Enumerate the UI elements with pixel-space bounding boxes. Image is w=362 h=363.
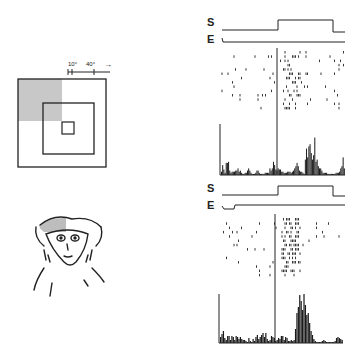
top-eye-trace <box>222 38 345 42</box>
top-stimulus-label: S <box>207 16 214 28</box>
bottom-histogram <box>220 294 343 343</box>
scale-bar <box>68 69 110 75</box>
top-eye-label: E <box>207 33 214 45</box>
bottom-stimulus-label: S <box>207 182 214 194</box>
bottom-raster <box>224 218 340 276</box>
bottom-eye-trace <box>222 205 345 209</box>
stimulus-diagram <box>18 79 106 167</box>
inner-square <box>62 122 74 134</box>
bottom-stimulus-trace <box>222 186 345 196</box>
bottom-eye-label: E <box>207 199 214 211</box>
top-stimulus-trace <box>222 20 345 32</box>
shaded-quadrant <box>18 79 62 121</box>
monkey-drawing <box>34 217 104 296</box>
top-histogram <box>221 138 345 175</box>
top-raster <box>222 51 344 109</box>
figure-canvas <box>0 0 362 363</box>
